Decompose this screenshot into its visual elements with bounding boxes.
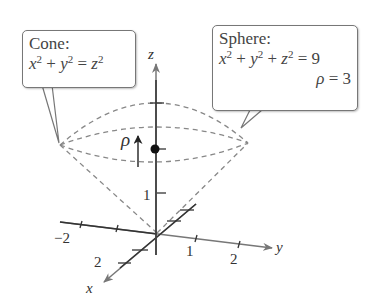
cone-callout: Cone: x2 + y2 = z2	[22, 30, 136, 88]
x-tick-2: 2	[94, 255, 102, 270]
sphere-title: Sphere:	[219, 29, 351, 49]
y-tick-neg2: −2	[54, 231, 70, 246]
y-axis	[60, 221, 272, 248]
z-tick-1: 1	[143, 188, 151, 203]
cone-equation: x2 + y2 = z2	[29, 54, 129, 74]
sphere-callout: Sphere: x2 + y2 + z2 = 9 ρ = 3	[212, 25, 358, 111]
y-tick-2: 2	[230, 252, 238, 267]
cone-title: Cone:	[29, 34, 129, 54]
sphere-equation: x2 + y2 + z2 = 9	[219, 49, 351, 69]
y-tick-1: 1	[186, 244, 194, 259]
sphere-callout-tail	[241, 110, 262, 128]
cone-surface	[60, 143, 248, 233]
x-axis-label: x	[86, 281, 93, 296]
point-marker	[151, 145, 160, 154]
cone-callout-tail	[42, 85, 59, 143]
y-axis-label: y	[276, 240, 283, 255]
z-axis-label: z	[148, 47, 154, 62]
sphere-rho-equation: ρ = 3	[219, 69, 351, 89]
rho-label: ρ	[121, 130, 130, 149]
x-axis	[104, 204, 196, 282]
